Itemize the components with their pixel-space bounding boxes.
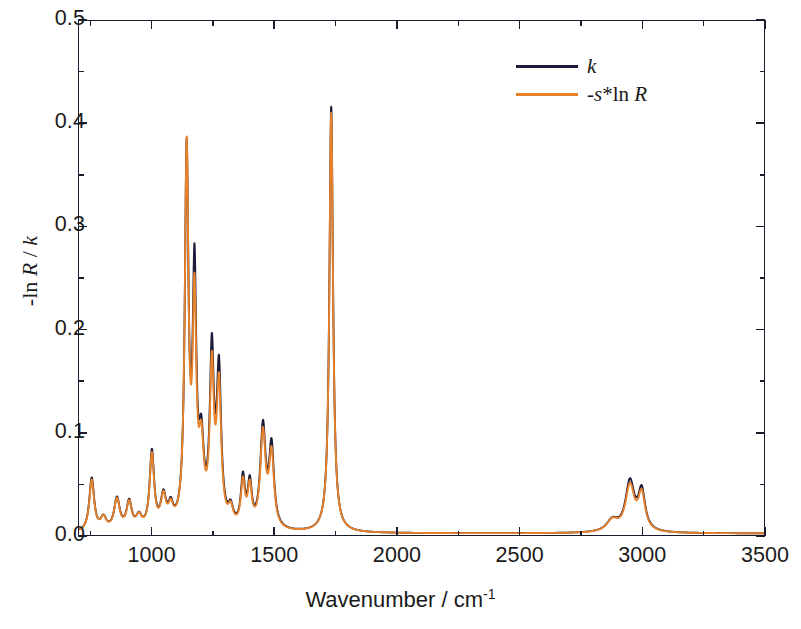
x-axis-title: Wavenumber / cm-1 [0,586,801,613]
y-tick-minor-right [760,71,766,73]
y-tick-minor [78,174,84,176]
x-tick-major-top [519,20,521,29]
x-tick-minor [212,531,214,537]
x-tick-major [396,527,398,536]
legend-item-k: k [516,52,647,80]
x-tick-major-top [151,20,153,29]
x-tick-label: 1500 [224,543,324,568]
y-tick-major-right [756,432,765,434]
legend-label-minus-s-ln-r: -s*ln R [587,82,647,107]
x-tick-major [519,527,521,536]
spectrum-curves [79,21,764,535]
x-tick-minor-top [458,20,460,26]
x-axis-title-text: Wavenumber / cm [305,587,483,612]
x-tick-label: 1000 [102,543,202,568]
legend-label-k: k [587,54,596,79]
x-tick-minor [335,531,337,537]
legend-swatch-k [516,65,578,68]
x-tick-minor [90,531,92,537]
x-tick-label: 3500 [715,543,801,568]
legend: k -s*ln R [516,52,647,108]
y-tick-label: 0.5 [25,6,85,31]
y-tick-minor [78,277,84,279]
x-tick-label: 2000 [347,543,447,568]
x-tick-minor-top [703,20,705,26]
ir-spectrum-figure: 0.00.10.20.30.40.51000150020002500300035… [0,0,801,629]
x-tick-minor-top [90,20,92,26]
legend-item-minus-s-ln-r: -s*ln R [516,80,647,108]
x-tick-major-top [642,20,644,29]
y-axis-title-part-2: / [17,246,42,263]
x-tick-minor [703,531,705,537]
y-axis-title-part-1: R [17,263,42,276]
y-axis-title-part-0: -ln [17,276,42,306]
y-tick-minor [78,484,84,486]
legend-swatch-minus-s-ln-r [516,93,578,96]
x-tick-major [642,527,644,536]
y-tick-minor-right [760,380,766,382]
x-tick-label: 2500 [470,543,570,568]
x-tick-major [151,527,153,536]
x-axis-title-exponent: -1 [483,586,496,602]
y-axis-title-part-3: k [17,236,42,246]
x-tick-major [273,527,275,536]
y-tick-minor-right [760,277,766,279]
series-path--s-ln-r [79,113,764,533]
x-tick-minor [458,531,460,537]
y-tick-label: 0.1 [25,419,85,444]
x-tick-major-top [396,20,398,29]
y-axis-title: -ln R / k [17,181,43,361]
x-tick-minor-top [580,20,582,26]
x-tick-label: 3000 [592,543,692,568]
x-tick-major-top [273,20,275,29]
y-tick-minor [78,380,84,382]
plot-area [78,20,765,536]
x-tick-minor [580,531,582,537]
x-tick-major [764,527,766,536]
y-tick-minor-right [760,174,766,176]
y-tick-label: 0.0 [25,522,85,547]
y-tick-major-right [756,226,765,228]
x-tick-major-top [764,20,766,29]
y-tick-minor-right [760,484,766,486]
y-tick-minor [78,71,84,73]
y-tick-major-right [756,122,765,124]
x-tick-minor-top [212,20,214,26]
y-tick-major-right [756,329,765,331]
x-tick-minor-top [335,20,337,26]
y-tick-label: 0.4 [25,109,85,134]
